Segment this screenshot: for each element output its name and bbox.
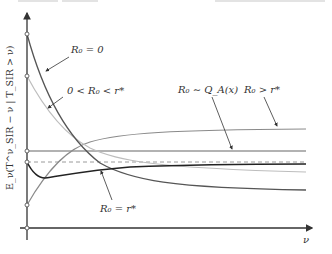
pointer-r0-zero xyxy=(46,57,69,71)
chart-canvas xyxy=(0,0,332,254)
pointer-r0-equal xyxy=(101,171,112,200)
pointer-r0-qa xyxy=(212,97,232,149)
annotation-r0-between: 0 < R₀ < r* xyxy=(67,85,124,96)
x-axis-label: ν xyxy=(303,234,309,245)
pointer-r0-greater xyxy=(264,97,277,126)
annotation-r0-equal: R₀ = r* xyxy=(100,203,136,214)
annotation-r0-greater: R₀ > r* xyxy=(244,84,280,95)
annotation-r0-qa: R₀ ∼ Q_A(x) xyxy=(178,84,238,95)
series-r0-greater xyxy=(27,129,306,205)
y-axis-label: E_ν(T^ν_SIR − ν | T_SIR > ν) xyxy=(4,46,15,190)
annotation-r0-zero: R₀ = 0 xyxy=(71,44,104,55)
